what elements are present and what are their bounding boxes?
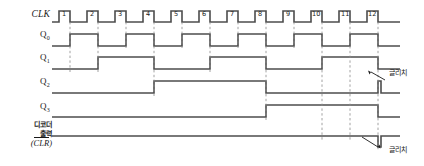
q0-trace [52,34,400,46]
timing-diagram: CLK Q0 Q1 Q2 Q3 디코더 출력 (CLR) [0,0,424,166]
clk-pulse-number-2: 2 [90,10,94,18]
clk-pulse-number-4: 4 [146,10,150,18]
clk-pulse-number-10: 10 [312,10,320,18]
clk-pulse-number-3: 3 [118,10,122,18]
glitch-annotation-lower: 글리치 [389,144,407,154]
q3-trace [52,105,400,117]
clk-pulse-number-12: 12 [368,10,376,18]
q2-trace [52,81,400,93]
clk-pulse-number-9: 9 [286,10,290,18]
clk-pulse-number-6: 6 [202,10,206,18]
glitch-annotation-upper: 글리치 [389,67,407,77]
waveform-canvas [0,0,424,166]
reference-gridlines [70,22,378,150]
decoder-clr-trace [52,136,400,147]
clk-pulse-number-5: 5 [174,10,178,18]
clk-pulse-number-7: 7 [230,10,234,18]
clk-pulse-number-1: 1 [62,10,66,18]
clk-pulse-number-8: 8 [258,10,262,18]
clk-pulse-number-11: 11 [341,10,349,18]
q1-trace [52,57,400,69]
